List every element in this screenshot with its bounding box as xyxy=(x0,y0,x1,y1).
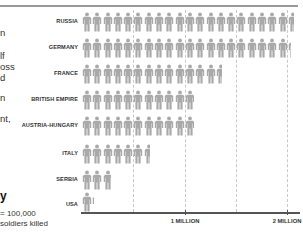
bar-france xyxy=(82,64,222,84)
soldier-icon xyxy=(164,64,174,84)
narrative-fragment: d xyxy=(0,72,5,83)
soldier-icon xyxy=(144,64,154,84)
soldier-icon xyxy=(103,90,113,110)
soldier-icon xyxy=(103,144,113,164)
soldier-icon xyxy=(216,38,226,58)
soldier-icon xyxy=(123,144,133,164)
tick-1m xyxy=(185,210,186,215)
soldier-icon xyxy=(206,64,216,84)
soldier-icon xyxy=(164,12,174,32)
soldier-icon xyxy=(92,90,102,110)
soldier-icon xyxy=(144,116,154,136)
soldier-icon xyxy=(103,64,113,84)
tick-label-2m: 2 MILLION xyxy=(273,218,302,224)
soldier-icon xyxy=(226,12,236,32)
soldier-icon xyxy=(175,64,185,84)
soldier-icon xyxy=(123,64,133,84)
soldier-icon xyxy=(247,12,257,32)
soldier-icon xyxy=(82,38,92,58)
soldier-icon xyxy=(206,12,216,32)
soldier-icon xyxy=(123,12,133,32)
soldier-icon xyxy=(278,12,288,32)
soldier-icon xyxy=(154,38,164,58)
soldier-icon xyxy=(206,38,216,58)
soldier-icon xyxy=(175,116,185,136)
soldier-icon xyxy=(175,38,185,58)
soldier-icon xyxy=(92,170,102,190)
bar-british-empire xyxy=(82,90,194,110)
key-unit-caption: soldiers killed xyxy=(0,219,48,228)
row-label-serbia: SERBIA xyxy=(56,176,78,182)
soldier-icon xyxy=(144,90,154,110)
bar-italy xyxy=(82,144,150,164)
soldier-icon xyxy=(92,38,102,58)
soldier-icon xyxy=(103,170,111,190)
narrative-fragment: n xyxy=(0,92,5,103)
soldier-icon xyxy=(113,144,123,164)
tick-label-1m: 1 MILLION xyxy=(171,218,200,224)
soldier-icon xyxy=(133,144,143,164)
key-title: y xyxy=(0,189,7,203)
bar-russia xyxy=(82,12,294,32)
soldier-icon xyxy=(175,90,185,110)
row-label-british-empire: BRITISH EMPIRE xyxy=(31,96,78,102)
soldier-icon xyxy=(226,38,236,58)
soldier-icon xyxy=(267,38,277,58)
soldier-icon xyxy=(103,116,113,136)
soldier-icon xyxy=(185,90,194,110)
soldier-icon xyxy=(175,12,185,32)
soldier-icon xyxy=(195,64,205,84)
soldier-icon xyxy=(82,144,92,164)
soldier-icon xyxy=(216,64,222,84)
bar-germany xyxy=(82,38,291,58)
soldier-icon xyxy=(133,116,143,136)
soldier-icon xyxy=(154,64,164,84)
soldier-icon xyxy=(92,192,94,212)
soldier-icon xyxy=(113,64,123,84)
soldier-icon xyxy=(113,116,123,136)
soldier-icon xyxy=(247,38,257,58)
soldier-icon xyxy=(154,90,164,110)
soldier-icon xyxy=(133,64,143,84)
soldier-icon xyxy=(82,116,92,136)
row-label-russia: RUSSIA xyxy=(56,18,78,24)
soldier-icon xyxy=(92,144,102,164)
soldier-icon xyxy=(164,38,174,58)
soldier-icon xyxy=(133,12,143,32)
soldier-icon xyxy=(123,90,133,110)
narrative-fragment: nt, xyxy=(0,113,11,124)
soldier-icon xyxy=(257,38,267,58)
soldier-icon xyxy=(236,38,246,58)
soldier-icon xyxy=(257,12,267,32)
soldier-icon xyxy=(133,38,143,58)
soldier-icon xyxy=(103,38,113,58)
soldier-icon xyxy=(113,38,123,58)
soldier-icon xyxy=(92,12,102,32)
soldier-icon xyxy=(82,192,92,212)
soldier-icon xyxy=(267,12,277,32)
soldier-icon xyxy=(288,38,291,58)
soldier-icon xyxy=(92,116,102,136)
soldier-icon xyxy=(92,64,102,84)
soldier-icon xyxy=(82,12,92,32)
soldier-icon xyxy=(123,38,133,58)
soldier-icon xyxy=(144,38,154,58)
soldier-icon xyxy=(154,116,164,136)
soldier-icon xyxy=(133,90,143,110)
soldier-icon xyxy=(164,116,174,136)
soldier-icon xyxy=(195,12,205,32)
soldier-icon xyxy=(164,90,174,110)
soldier-icon xyxy=(195,38,205,58)
soldier-icon xyxy=(144,12,154,32)
row-label-germany: GERMANY xyxy=(49,44,78,50)
soldier-icon xyxy=(113,90,123,110)
row-label-austria-hungary: AUSTRIA-HUNGARY xyxy=(22,122,78,128)
key-unit-value: = 100,000 xyxy=(0,209,36,218)
row-label-italy: ITALY xyxy=(62,150,78,156)
narrative-fragment: lf xyxy=(0,50,5,61)
soldier-icon xyxy=(82,64,92,84)
row-label-usa: USA xyxy=(66,201,78,207)
soldier-icon xyxy=(82,90,92,110)
soldier-icon xyxy=(216,12,226,32)
bar-serbia xyxy=(82,170,111,190)
